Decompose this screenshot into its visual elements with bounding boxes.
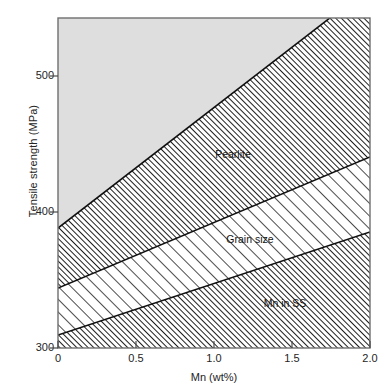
plot-regions xyxy=(58,0,370,348)
plot-svg: Pearlite Grain size Mn in SS xyxy=(0,0,389,392)
chart-figure: Tensile strength (MPa) 300 400 500 0 0.5… xyxy=(0,0,389,392)
region-label-pearlite: Pearlite xyxy=(215,148,251,160)
region-label-mn-in-ss: Mn in SS xyxy=(264,297,307,309)
region-label-grain-size: Grain size xyxy=(226,233,273,245)
